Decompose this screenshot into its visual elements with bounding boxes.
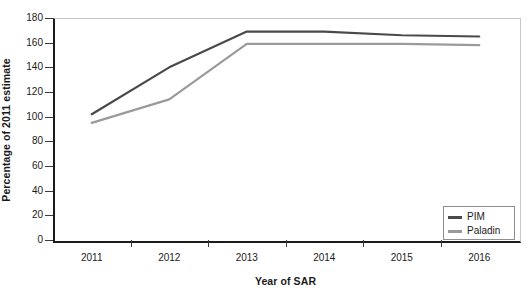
y-tick-mark: [45, 141, 53, 142]
y-tick-label: 180: [5, 12, 43, 23]
y-tick-label-wrap: 160: [0, 43, 43, 55]
y-tick-label-wrap: 20: [0, 215, 43, 227]
y-tick-label-wrap: 140: [0, 67, 43, 79]
x-tick-label: 2011: [53, 252, 130, 263]
y-tick-label: 100: [5, 111, 43, 122]
legend-label-paladin: Paladin: [467, 224, 500, 238]
y-tick-label: 0: [5, 234, 43, 245]
x-tick-mark: [131, 240, 132, 247]
y-tick-label-wrap: 180: [0, 18, 43, 30]
y-tick-mark: [45, 117, 53, 118]
x-tick-label: 2012: [131, 252, 208, 263]
legend-item-pim: PIM: [448, 210, 514, 224]
legend-label-pim: PIM: [467, 210, 485, 224]
y-tick-mark: [45, 43, 53, 44]
y-tick-label-wrap: 80: [0, 141, 43, 153]
x-tick-label: 2015: [363, 252, 440, 263]
legend-swatch-pim: [448, 216, 462, 219]
x-tick-mark: [363, 240, 364, 247]
x-tick-mark: [441, 240, 442, 247]
y-tick-label-wrap: 120: [0, 92, 43, 104]
y-tick-mark: [45, 191, 53, 192]
y-tick-label: 60: [5, 160, 43, 171]
y-tick-mark: [45, 166, 53, 167]
x-tick-label: 2013: [208, 252, 285, 263]
y-tick-label-wrap: 0: [0, 240, 43, 252]
y-tick-label-wrap: 40: [0, 191, 43, 203]
y-tick-label: 80: [5, 135, 43, 146]
y-tick-label-wrap: 60: [0, 166, 43, 178]
y-tick-label: 40: [5, 185, 43, 196]
x-axis-title: Year of SAR: [53, 275, 518, 287]
y-tick-label-wrap: 100: [0, 117, 43, 129]
y-tick-mark: [45, 18, 53, 19]
y-tick-mark: [45, 67, 53, 68]
y-tick-label: 140: [5, 61, 43, 72]
y-tick-label: 20: [5, 209, 43, 220]
x-tick-mark: [286, 240, 287, 247]
x-tick-mark: [208, 240, 209, 247]
x-tick-label: 2014: [286, 252, 363, 263]
y-tick-mark: [45, 215, 53, 216]
x-tick-label: 2016: [441, 252, 518, 263]
y-tick-label: 120: [5, 86, 43, 97]
y-tick-mark: [45, 92, 53, 93]
legend-item-paladin: Paladin: [448, 224, 514, 238]
chart-legend: PIM Paladin: [443, 206, 515, 240]
y-tick-label: 160: [5, 37, 43, 48]
line-chart: Percentage of 2011 estimate 020406080100…: [0, 0, 530, 296]
legend-swatch-paladin: [448, 230, 462, 233]
y-tick-mark: [45, 240, 53, 241]
